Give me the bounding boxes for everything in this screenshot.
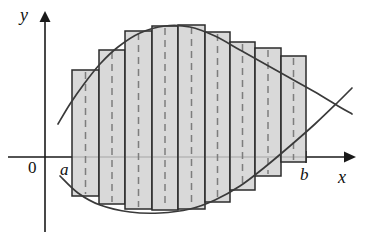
- origin-label: 0: [28, 159, 37, 176]
- y-axis-label: y: [20, 6, 28, 24]
- x-axis-label: x: [338, 168, 346, 186]
- y-axis-arrow-icon: [40, 11, 51, 22]
- riemann-sum-figure: y x 0 a b: [0, 0, 370, 240]
- x-axis-arrow-icon: [344, 152, 356, 163]
- lower-bound-label-a: a: [60, 161, 69, 178]
- rectangle-bars-group: [72, 25, 306, 210]
- riemann-rectangle: [205, 32, 230, 202]
- upper-bound-label-b: b: [300, 166, 309, 183]
- figure-canvas: [0, 0, 370, 240]
